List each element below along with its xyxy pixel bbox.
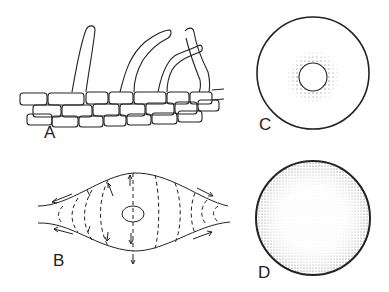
panel-label-a: A [44,123,55,143]
panel-d-drawing [256,161,370,275]
nucleus [299,63,327,91]
panel-a-drawing [20,26,224,127]
panel-label-d: D [258,263,270,283]
panel-c-drawing [257,17,369,129]
panel-label-c: C [259,115,271,135]
panel-label-b: B [53,251,64,271]
panel-b-drawing [38,173,230,264]
cell-layer [20,89,224,127]
flow-lines [59,173,219,251]
figure-canvas [0,0,389,292]
